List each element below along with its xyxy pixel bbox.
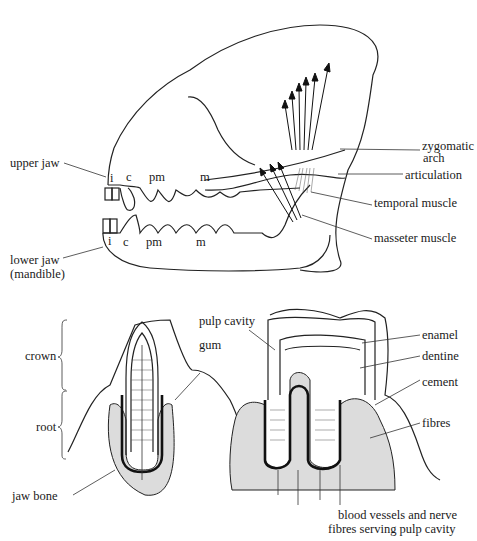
single-root-tooth — [68, 320, 250, 495]
label-fibres: fibres — [422, 416, 450, 430]
label-arch: arch — [423, 151, 445, 165]
upper-tooth-label-m: m — [200, 170, 210, 184]
label-jaw-bone: jaw bone — [12, 489, 57, 503]
label-nerve-fibres: fibres serving pulp cavity — [328, 522, 455, 536]
upper-tooth-label-pm: pm — [149, 170, 165, 184]
label-masseter-muscle: masseter muscle — [374, 231, 456, 245]
lower-tooth-label-m: m — [196, 235, 206, 249]
temporal-muscle-fibres — [295, 168, 314, 193]
upper-tooth-label-c: c — [126, 170, 132, 184]
label-blood-vessels: blood vessels and nerve — [338, 508, 457, 522]
label-mandible: (mandible) — [10, 267, 65, 281]
label-dentine: dentine — [422, 349, 459, 363]
label-root: root — [36, 420, 56, 434]
label-gum: gum — [199, 338, 221, 352]
label-articulation: articulation — [405, 168, 462, 182]
molar-tooth — [230, 309, 440, 505]
skull-outline — [103, 25, 378, 272]
skull-leader-lines — [63, 149, 420, 258]
label-pulp-cavity: pulp cavity — [199, 314, 255, 328]
label-lower-jaw: lower jaw — [10, 253, 60, 267]
label-enamel: enamel — [422, 328, 458, 342]
upper-tooth-label-i: i — [110, 171, 113, 185]
label-temporal-muscle: temporal muscle — [374, 196, 457, 210]
label-crown: crown — [25, 349, 56, 363]
lower-tooth-label-c: c — [123, 235, 129, 249]
label-cement: cement — [422, 375, 458, 389]
lower-tooth-label-pm: pm — [146, 235, 162, 249]
lower-tooth-label-i: i — [108, 234, 111, 248]
diagram-canvas — [0, 0, 477, 541]
muscle-pull-arrows — [282, 63, 330, 150]
crown-root-brackets — [58, 320, 67, 459]
label-upper-jaw: upper jaw — [10, 156, 60, 170]
